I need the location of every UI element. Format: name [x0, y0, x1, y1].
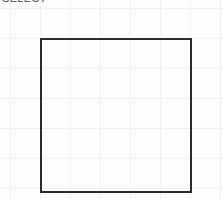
grid-canvas[interactable] [0, 0, 223, 199]
grid-line-vertical [220, 0, 221, 199]
grid-line-horizontal [0, 8, 223, 9]
shape-rectangle[interactable] [40, 38, 192, 193]
clipped-header-label: SELECT [2, 0, 47, 5]
grid-line-vertical [10, 0, 11, 199]
screenshot-root: SELECT [0, 0, 223, 199]
